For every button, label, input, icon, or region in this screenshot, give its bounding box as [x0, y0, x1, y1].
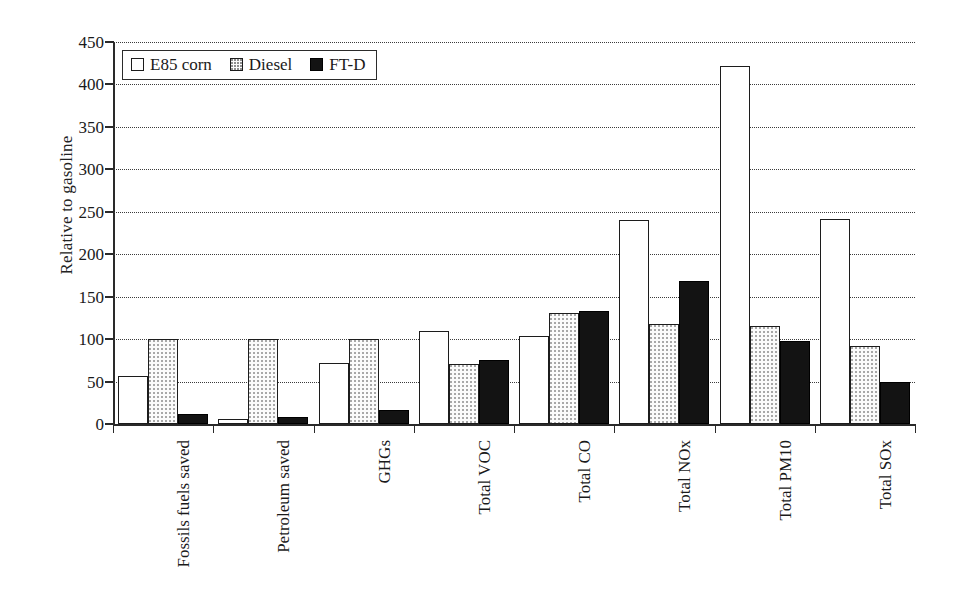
x-axis-tick-label: Total VOC	[474, 440, 496, 610]
x-axis-tick-mark	[915, 424, 916, 433]
x-axis-tick-mark	[113, 424, 114, 433]
chart-legend: E85 cornDieselFT-D	[122, 50, 377, 80]
x-axis-tick-label: Total SOx	[875, 440, 897, 610]
x-axis-tick-mark	[213, 424, 214, 433]
x-axis-tick-label: Total PM10	[775, 440, 797, 610]
x-axis-tick-mark	[614, 424, 615, 433]
y-axis-tick-mark	[105, 253, 114, 255]
y-axis-tick-mark	[105, 338, 114, 340]
x-axis-tick-label: GHGs	[374, 440, 396, 610]
y-axis-tick-mark	[105, 41, 114, 43]
x-axis-tick-mark	[715, 424, 716, 433]
black-square-icon	[310, 58, 323, 71]
x-axis-tick-mark	[514, 424, 515, 433]
x-axis-tick-label: Petroleum saved	[273, 440, 295, 610]
y-axis-tick-mark	[105, 211, 114, 213]
legend-item-label: FT-D	[329, 56, 365, 73]
legend-item: FT-D	[310, 56, 365, 73]
x-axis-tick-label: Total CO	[574, 440, 596, 610]
x-axis-tick-mark	[314, 424, 315, 433]
legend-item-label: Diesel	[249, 56, 292, 73]
x-axis-tick-mark	[414, 424, 415, 433]
y-axis-tick-mark	[105, 296, 114, 298]
legend-item: Diesel	[230, 56, 292, 73]
x-axis-tick-labels: Fossils fuels savedPetroleum savedGHGsTo…	[0, 0, 958, 616]
legend-item-label: E85 corn	[150, 56, 212, 73]
x-axis-tick-label: Total NOx	[674, 440, 696, 610]
white-square-icon	[131, 58, 144, 71]
y-axis-tick-mark	[105, 126, 114, 128]
dotted-square-icon	[230, 58, 243, 71]
y-axis-tick-mark	[105, 381, 114, 383]
y-axis-tick-mark	[105, 83, 114, 85]
x-axis-tick-mark	[815, 424, 816, 433]
x-axis-tick-label: Fossils fuels saved	[173, 440, 195, 610]
y-axis-tick-mark	[105, 168, 114, 170]
bar-chart: Relative to gasoline 4504003503002502001…	[0, 0, 958, 616]
legend-item: E85 corn	[131, 56, 212, 73]
